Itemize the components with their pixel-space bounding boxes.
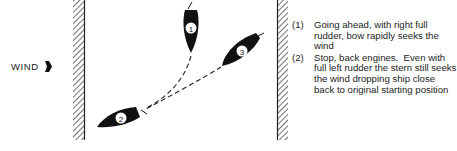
- maneuver-notes: (1) Going ahead, with right full rudder,…: [292, 20, 457, 96]
- note-2: (2) Stop, back engines. Even with full l…: [292, 53, 457, 95]
- wind-label: WIND: [11, 61, 39, 72]
- note-1-number: (1): [292, 20, 314, 52]
- boat-3-label: 3: [240, 48, 245, 57]
- note-1-text: Going ahead, with right full rudder, bow…: [314, 20, 457, 52]
- boat-2-label: 2: [119, 115, 124, 124]
- note-2-number: (2): [292, 53, 314, 95]
- path-boat1-to-boat2: [146, 56, 191, 108]
- boat-2: 2: [97, 107, 147, 127]
- boat-1: 1: [183, 2, 198, 53]
- boat-3: 3: [222, 33, 264, 66]
- note-1: (1) Going ahead, with right full rudder,…: [292, 20, 457, 52]
- wind-arrow-icon: [45, 61, 52, 72]
- right-pier-wall: [278, 0, 289, 140]
- left-pier-wall: [73, 0, 85, 140]
- note-2-text: Stop, back engines. Even with full left …: [314, 53, 457, 95]
- boat-1-label: 1: [189, 25, 194, 34]
